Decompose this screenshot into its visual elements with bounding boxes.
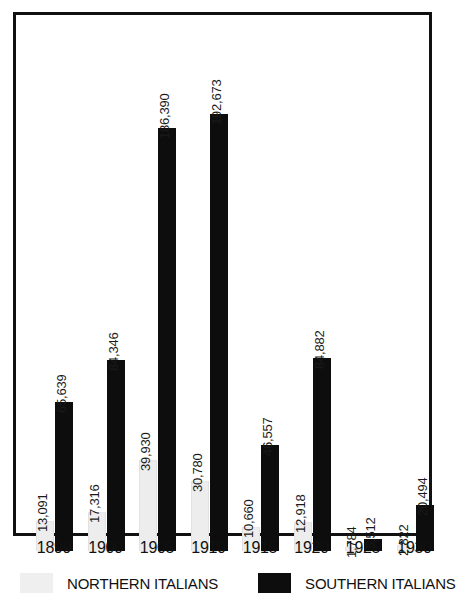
black-swatch-icon [258,573,291,593]
legend-item-southern-italians: SOUTHERN ITALIANS [258,573,456,593]
x-tick-label-1910: 1910 [183,539,235,557]
legend-label-southern-italians: SOUTHERN ITALIANS [305,575,456,592]
plot-area: 13,09165,63917,31684,34639,930186,39030,… [32,30,445,551]
bar-group-1910: 30,780192,673 [189,30,235,551]
x-tick-label-1920: 1920 [286,539,338,557]
bar-southern-1900 [107,360,125,551]
x-axis-tick-labels: 18991900190519101915192019251930 [13,539,432,565]
x-tick-label-1899: 1899 [28,539,80,557]
value-label-southern-1930: 20,494 [415,477,430,516]
legend-item-northern-italians: NORTHERN ITALIANS [20,573,218,593]
bar-southern-1910 [210,114,228,551]
value-label-northern-1920: 12,918 [293,494,308,533]
value-label-northern-1910: 30,780 [190,454,205,493]
bar-southern-1915 [261,445,279,551]
value-label-northern-1900: 17,316 [87,484,102,523]
x-tick-label-1900: 1900 [80,539,132,557]
chart-legend: NORTHERN ITALIANS SOUTHERN ITALIANS [13,568,432,598]
bar-group-1920: 12,91884,882 [292,30,338,551]
bar-group-1900: 17,31684,346 [86,30,132,551]
bar-southern-1899 [55,402,73,551]
x-tick-label-1925: 1925 [337,539,389,557]
bar-southern-1905 [158,128,176,551]
bar-group-1925: 1,7845,512 [343,30,389,551]
value-label-southern-1899: 65,639 [54,375,69,414]
x-tick-label-1905: 1905 [131,539,183,557]
x-tick-label-1930: 1930 [389,539,441,557]
bar-group-1905: 39,930186,390 [137,30,183,551]
light-gray-swatch-icon [20,573,53,593]
value-label-northern-1899: 13,091 [35,494,50,533]
bar-northern-1905 [139,460,157,551]
value-label-southern-1900: 84,346 [106,332,121,371]
bar-group-1899: 13,09165,639 [34,30,80,551]
bar-group-1915: 10,66046,557 [240,30,286,551]
value-label-southern-1905: 186,390 [157,94,172,140]
value-label-southern-1910: 192,673 [209,79,224,125]
bar-southern-1920 [313,358,331,551]
bar-group-1930: 2,82220,494 [395,30,441,551]
legend-label-northern-italians: NORTHERN ITALIANS [67,575,218,592]
x-tick-label-1915: 1915 [234,539,286,557]
value-label-northern-1915: 10,660 [241,499,256,538]
plot-frame: 13,09165,63917,31684,34639,930186,39030,… [13,12,432,536]
value-label-southern-1915: 46,557 [260,418,275,457]
value-label-southern-1920: 84,882 [312,331,327,370]
value-label-northern-1905: 39,930 [138,433,153,472]
